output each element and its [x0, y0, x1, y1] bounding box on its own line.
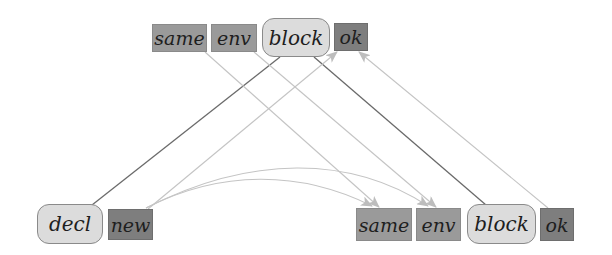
bottom-same-node: same [356, 208, 412, 241]
edge-same-to-same [205, 52, 379, 207]
bottom-ok-node: ok [540, 208, 574, 241]
new-node: new [108, 209, 153, 240]
top-env-node: env [211, 24, 257, 52]
decl-node: decl [37, 204, 103, 244]
top-same-node: same [152, 24, 207, 52]
edge-env-to-env [254, 52, 436, 207]
edge-block-to-block [314, 57, 486, 205]
edge-block-to-decl [92, 57, 280, 205]
bottom-env-node: env [416, 208, 461, 241]
top-ok-node: ok [334, 23, 368, 51]
top-block-node: block [262, 18, 330, 57]
edge-new-to-same-curve [146, 179, 372, 208]
bottom-block-node: block [467, 204, 536, 244]
edge-new-to-env-curve [146, 168, 428, 208]
edge-new-to-ok [148, 52, 337, 209]
